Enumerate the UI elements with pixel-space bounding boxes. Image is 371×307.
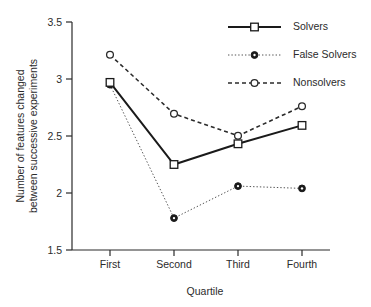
y-tick-label: 3 <box>56 73 62 85</box>
legend-item-solvers: Solvers <box>228 20 328 32</box>
false-solvers-line <box>110 85 302 218</box>
y-tick-label: 2 <box>56 187 62 199</box>
series-solvers <box>106 79 306 169</box>
series-nonsolvers <box>107 51 306 139</box>
y-tick-label: 3.5 <box>47 16 62 28</box>
legend-label-false-solvers: False Solvers <box>293 48 357 60</box>
solvers-line <box>110 82 302 164</box>
y-axis-title-line1: Number of features changed <box>14 69 26 202</box>
nonsolvers-point-first <box>107 51 114 58</box>
y-tick-label: 1.5 <box>47 244 62 256</box>
series-false-solvers <box>107 81 306 221</box>
x-tick-label-first: First <box>100 258 120 270</box>
legend-marker-dot-inner-icon <box>253 54 255 56</box>
solvers-point-second <box>170 161 178 169</box>
nonsolvers-point-fourth <box>299 103 306 110</box>
x-tick-label-fourth: Fourth <box>287 258 318 270</box>
x-tick-label-third: Third <box>226 258 250 270</box>
nonsolvers-line <box>110 55 302 136</box>
chart-figure: 3.5 3 2.5 2 1.5 First Second Third Fourt… <box>0 0 371 307</box>
solvers-point-third <box>234 140 242 148</box>
x-tick-label-second: Second <box>156 258 192 270</box>
legend-label-solvers: Solvers <box>293 20 328 32</box>
false-solvers-point-second <box>171 215 178 222</box>
legend-item-false-solvers: False Solvers <box>228 48 357 60</box>
false-solvers-point-third <box>235 183 242 190</box>
legend-marker-square-icon <box>251 23 259 31</box>
false-solvers-point-fourth <box>299 185 306 192</box>
line-chart: 3.5 3 2.5 2 1.5 First Second Third Fourt… <box>0 0 371 307</box>
y-tick-label: 2.5 <box>47 130 62 142</box>
y-axis-title-line2: between successive experiments <box>27 59 39 213</box>
legend-item-nonsolvers: Nonsolvers <box>228 76 346 88</box>
legend-label-nonsolvers: Nonsolvers <box>293 76 346 88</box>
chart-legend: Solvers False Solvers Nonsolvers <box>228 20 357 88</box>
x-axis-title: Quartile <box>187 285 224 297</box>
nonsolvers-point-second <box>171 110 178 117</box>
solvers-point-fourth <box>298 122 306 130</box>
legend-marker-open-circle-icon <box>251 80 258 87</box>
nonsolvers-point-third <box>235 132 242 139</box>
solvers-point-first <box>106 79 114 87</box>
